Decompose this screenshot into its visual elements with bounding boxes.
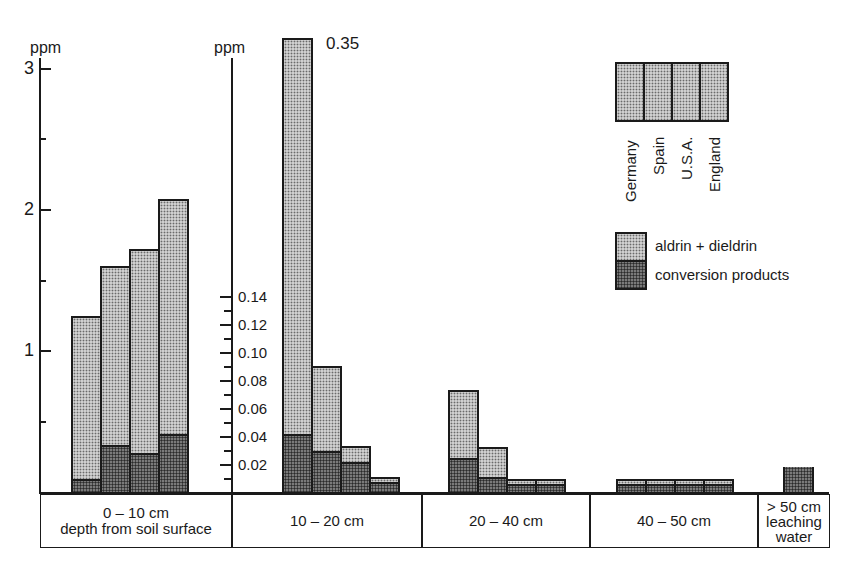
left-tick-label: 3 xyxy=(24,60,34,76)
bar-england xyxy=(158,199,189,492)
left-axis-unit: ppm xyxy=(30,40,61,56)
bar-segment-conversion-products xyxy=(313,451,340,492)
right-tick xyxy=(220,324,231,326)
right-tick xyxy=(220,436,231,438)
legend-label-aldrin-dieldrin: aldrin + dieldrin xyxy=(655,238,757,254)
bar-germany xyxy=(71,316,102,492)
category-label: 20 – 40 cm xyxy=(469,513,543,529)
left-minor-tick xyxy=(40,421,46,423)
legend-label-conversion-products: conversion products xyxy=(655,267,789,283)
right-minor-tick xyxy=(224,338,231,340)
category-0-10cm: 0 – 10 cm depth from soil surface xyxy=(40,494,232,548)
bar-germany xyxy=(448,390,479,492)
bar-segment-conversion-products xyxy=(284,434,311,492)
category-10-20cm: 10 – 20 cm xyxy=(232,494,422,548)
right-minor-tick xyxy=(224,366,231,368)
bar-segment-conversion-products xyxy=(131,453,158,492)
bar-england xyxy=(369,477,400,492)
left-tick-label: 1 xyxy=(24,342,34,358)
right-axis-unit: ppm xyxy=(214,40,245,56)
left-tick xyxy=(40,68,51,70)
bar-germany xyxy=(783,467,814,492)
bar-usa xyxy=(129,249,160,492)
legend-swatch-usa xyxy=(671,62,701,122)
right-tick xyxy=(220,296,231,298)
bar-spain xyxy=(645,479,676,492)
bar-segment-conversion-products xyxy=(537,484,564,492)
bar-segment-conversion-products xyxy=(371,482,398,492)
left-tick xyxy=(40,350,51,352)
right-tick-label: 0.04 xyxy=(236,429,269,444)
category-label: 40 – 50 cm xyxy=(637,513,711,529)
bar-spain xyxy=(311,366,342,492)
right-tick-label: 0.14 xyxy=(236,289,269,304)
category-label: 10 – 20 cm xyxy=(290,513,364,529)
right-tick-label: 0.06 xyxy=(236,401,269,416)
legend-swatch-spain xyxy=(643,62,673,122)
right-tick xyxy=(220,380,231,382)
bar-england xyxy=(703,479,734,492)
bar-usa xyxy=(674,479,705,492)
bar-segment-conversion-products xyxy=(342,462,369,492)
bar-segment-conversion-products xyxy=(479,477,506,492)
left-tick xyxy=(40,209,51,211)
right-tick-label: 0.08 xyxy=(236,373,269,388)
right-tick-label: 0.12 xyxy=(236,317,269,332)
right-tick xyxy=(220,352,231,354)
bar-segment-conversion-products xyxy=(676,484,703,492)
left-tick-label: 2 xyxy=(24,201,34,217)
bar-segment-conversion-products xyxy=(618,484,645,492)
legend-swatch-aldrin-dieldrin xyxy=(615,232,647,262)
right-minor-tick xyxy=(224,422,231,424)
legend-country-label: U.S.A. xyxy=(678,137,695,180)
category-label: 0 – 10 cm xyxy=(103,505,169,521)
right-minor-tick xyxy=(224,394,231,396)
bar-germany xyxy=(616,479,647,492)
bar-segment-conversion-products xyxy=(785,467,812,492)
left-axis-line xyxy=(39,58,41,494)
left-minor-tick xyxy=(40,138,46,140)
right-tick xyxy=(220,464,231,466)
right-tick-label: 0.02 xyxy=(236,457,269,472)
bar-segment-conversion-products xyxy=(705,484,732,492)
left-minor-tick xyxy=(40,280,46,282)
legend-country-label: Spain xyxy=(650,137,667,175)
bar-spain xyxy=(100,266,131,492)
bar-usa xyxy=(340,446,371,492)
bar-segment-conversion-products xyxy=(160,434,187,492)
right-tick xyxy=(220,408,231,410)
bar-usa xyxy=(506,479,537,492)
right-minor-tick xyxy=(224,478,231,480)
category-sublabel: water xyxy=(776,529,813,544)
category-sublabel: leaching xyxy=(766,514,822,529)
right-minor-tick xyxy=(224,450,231,452)
category-label: > 50 cm xyxy=(767,499,821,514)
category-leaching-water: > 50 cm leaching water xyxy=(758,494,830,548)
category-40-50cm: 40 – 50 cm xyxy=(590,494,758,548)
bar-spain xyxy=(477,447,508,492)
bar-segment-conversion-products xyxy=(508,484,535,492)
legend-swatch-england xyxy=(699,62,729,122)
broken-bar-value: 0.35 xyxy=(326,36,359,52)
category-20-40cm: 20 – 40 cm xyxy=(422,494,590,548)
bar-segment-conversion-products xyxy=(450,458,477,492)
bar-segment-conversion-products xyxy=(73,479,100,492)
bar-segment-conversion-products xyxy=(102,445,129,492)
right-tick-label: 0.10 xyxy=(236,345,269,360)
legend-country-label: England xyxy=(706,137,723,192)
bar-segment-conversion-products xyxy=(647,484,674,492)
right-axis-line xyxy=(231,58,233,494)
bar-germany xyxy=(282,38,313,492)
bar-england xyxy=(535,479,566,492)
legend-swatch-conversion-products xyxy=(615,260,647,290)
category-sublabel: depth from soil surface xyxy=(60,521,212,537)
legend-swatch-germany xyxy=(615,62,645,122)
legend-country-label: Germany xyxy=(622,140,639,202)
right-minor-tick xyxy=(224,310,231,312)
